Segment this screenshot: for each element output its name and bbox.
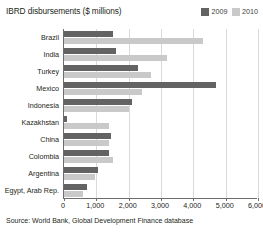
- bar-row: [64, 80, 257, 97]
- category-label: China: [0, 135, 59, 144]
- bar-row: [64, 97, 257, 114]
- y-axis-category-labels: BrazilIndiaTurkeyMexicoIndonesiaKazakhst…: [0, 29, 59, 199]
- x-axis-tick-label: 1,000: [86, 201, 104, 210]
- chart-header: IBRD disbursements ($ millions) 2009 201…: [0, 6, 263, 22]
- gridline: [258, 29, 259, 198]
- bar-rows: [64, 29, 257, 198]
- legend-item-2009[interactable]: 2009: [201, 7, 228, 16]
- legend-swatch-2009: [201, 8, 209, 16]
- category-label: India: [0, 50, 59, 59]
- legend-swatch-2010: [232, 8, 240, 16]
- category-label: Egypt, Arab Rep.: [0, 186, 59, 195]
- bar-2010[interactable]: [64, 106, 129, 112]
- x-axis-tick-label: 5,000: [216, 201, 234, 210]
- bar-row: [64, 131, 257, 148]
- category-label: Colombia: [0, 152, 59, 161]
- bar-2010[interactable]: [64, 55, 167, 61]
- category-label: Argentina: [0, 169, 59, 178]
- bar-row: [64, 182, 257, 199]
- legend-label-2009: 2009: [212, 7, 228, 16]
- bar-2009[interactable]: [64, 82, 216, 88]
- bar-row: [64, 148, 257, 165]
- bar-2009[interactable]: [64, 65, 138, 71]
- bar-row: [64, 165, 257, 182]
- category-label: Indonesia: [0, 101, 59, 110]
- bar-2009[interactable]: [64, 133, 111, 139]
- bar-2010[interactable]: [64, 191, 83, 197]
- chart-legend: 2009 2010: [201, 7, 258, 16]
- bar-2009[interactable]: [64, 31, 113, 37]
- category-label: Kazakhstan: [0, 118, 59, 127]
- chart-figure: IBRD disbursements ($ millions) 2009 201…: [0, 0, 263, 233]
- bar-row: [64, 63, 257, 80]
- bar-2009[interactable]: [64, 167, 98, 173]
- x-axis-tick-labels: 01,0002,0003,0004,0005,0006,000: [0, 201, 263, 213]
- bar-2009[interactable]: [64, 116, 67, 122]
- chart-title: IBRD disbursements ($ millions): [6, 6, 121, 16]
- bar-row: [64, 29, 257, 46]
- bar-2009[interactable]: [64, 150, 109, 156]
- category-label: Mexico: [0, 84, 59, 93]
- bar-row: [64, 46, 257, 63]
- bar-2009[interactable]: [64, 99, 132, 105]
- bar-2010[interactable]: [64, 72, 151, 78]
- bar-row: [64, 114, 257, 131]
- category-label: Turkey: [0, 67, 59, 76]
- x-axis-tick-label: 3,000: [151, 201, 169, 210]
- category-label: Brazil: [0, 33, 59, 42]
- bar-2010[interactable]: [64, 123, 109, 129]
- bar-2010[interactable]: [64, 89, 142, 95]
- legend-label-2010: 2010: [242, 7, 258, 16]
- x-axis-tick-label: 6,000: [248, 201, 263, 210]
- x-axis-tick-label: 2,000: [119, 201, 137, 210]
- x-axis-tick-label: 4,000: [183, 201, 201, 210]
- bar-2010[interactable]: [64, 174, 95, 180]
- chart-source-note: Source: World Bank, Global Development F…: [6, 217, 193, 224]
- bar-2009[interactable]: [64, 184, 87, 190]
- bar-2010[interactable]: [64, 140, 109, 146]
- bar-2010[interactable]: [64, 157, 113, 163]
- x-axis-tick-label: 0: [61, 201, 65, 210]
- legend-item-2010[interactable]: 2010: [232, 7, 259, 16]
- bar-2009[interactable]: [64, 48, 116, 54]
- bar-2010[interactable]: [64, 38, 203, 44]
- plot-area: [63, 29, 257, 199]
